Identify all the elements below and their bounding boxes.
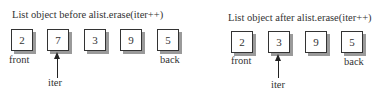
list-node: 9 [120,29,142,51]
list-node: 2 [231,31,253,53]
front-label: front [231,55,251,66]
list-node: 2 [11,29,33,51]
node-value: 3 [276,36,282,48]
list-node: 5 [341,31,363,53]
list-node: 3 [84,29,106,51]
after-title: List object after alist.erase(iter++) [228,12,372,23]
front-label: front [9,54,29,65]
list-node: 9 [305,31,327,53]
iter-label: iter [271,79,285,90]
node-value: 5 [165,34,171,46]
node-value: 9 [128,34,134,46]
iter-arrow-shaft [278,60,279,78]
iter-arrow-shaft [57,58,58,78]
node-value: 2 [239,36,245,48]
back-label: back [344,56,364,67]
list-node: 7 [47,29,69,51]
node-value: 7 [55,34,61,46]
list-node: 3 [268,31,290,53]
iter-label: iter [48,77,62,88]
back-label: back [160,54,180,65]
node-value: 3 [92,34,98,46]
node-value: 9 [313,36,319,48]
node-value: 5 [349,36,355,48]
before-title: List object before alist.erase(iter++) [12,9,163,20]
node-value: 2 [19,34,25,46]
list-node: 5 [157,29,179,51]
